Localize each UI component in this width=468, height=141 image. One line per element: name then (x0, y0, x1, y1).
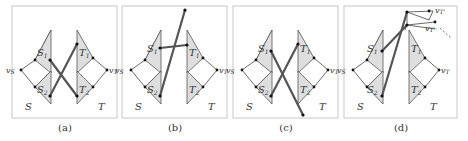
figure-diagram: S1 S2 T1 T2 vS vT S T (a) S1 S2 T1 T2 vS… (0, 0, 468, 141)
edge-s2-t1 (271, 44, 298, 96)
label-vs: vS (226, 66, 235, 75)
edge-s2-tprime (382, 12, 407, 96)
t-prime-edge-bottom (407, 12, 429, 20)
edge-s1-t2 (50, 60, 77, 96)
t-prime-edge (429, 11, 433, 20)
panel-b: S1 S2 T1 T2 vS vT S T (b) (115, 6, 229, 133)
edge-s2-out (160, 10, 185, 96)
caption-b: (b) (168, 122, 182, 133)
panel-d: vT' vT'' S1 S2 T1 T2 vS vT S T (d) (337, 6, 457, 133)
label-t: T (208, 101, 216, 112)
panel-a: S1 S2 T1 T2 vS vT S T (a) (6, 6, 119, 133)
caption-c: (c) (279, 122, 293, 133)
label-t: T (319, 101, 327, 112)
panel-c: S1 S2 T1 T2 vS vT S T (c) (226, 6, 340, 133)
label-t1: T1 (411, 43, 422, 55)
edge-s2-t1 (50, 44, 77, 96)
label-s: S (246, 101, 253, 112)
label-vs: vS (6, 66, 15, 75)
label-vs: vS (337, 66, 346, 75)
label-t1: T1 (300, 43, 311, 55)
edge-s1-tdprime (382, 25, 407, 51)
label-s: S (135, 101, 142, 112)
caption-d: (d) (394, 122, 408, 133)
label-vs: vS (115, 66, 124, 75)
label-s: S (357, 101, 364, 112)
label-s: S (25, 101, 32, 112)
label-vt: vT (441, 66, 451, 75)
label-t: T (98, 101, 106, 112)
t-dprime-edge-top (407, 22, 435, 25)
caption-a: (a) (58, 122, 72, 133)
label-vtdprime: vT'' (425, 24, 437, 33)
label-t: T (430, 101, 438, 112)
dashed-continuation (440, 28, 451, 38)
label-vtprime: vT' (435, 6, 446, 15)
